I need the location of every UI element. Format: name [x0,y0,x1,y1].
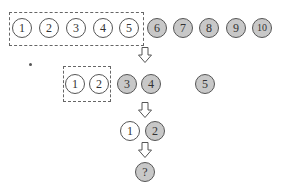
node-row1-6: 6 [147,18,167,38]
node-row1-1: 1 [12,18,32,38]
node-row1-2: 2 [39,18,59,38]
stray-dot [29,63,32,66]
node-row1-4: 4 [93,18,113,38]
node-row2-2: 2 [89,74,109,94]
node-row1-3: 3 [66,18,86,38]
node-row2-5: 5 [195,74,215,94]
node-row3-2: 2 [145,121,165,141]
node-row1-10: 10 [252,18,272,38]
down-arrow-icon [138,142,152,158]
down-arrow-icon [138,102,152,118]
node-row2-3: 3 [117,74,137,94]
node-row4-unknown: ? [135,162,155,182]
down-arrow-icon [138,47,152,63]
node-row2-4: 4 [141,74,161,94]
node-row1-7: 7 [173,18,193,38]
node-row3-1: 1 [120,121,140,141]
node-row1-8: 8 [199,18,219,38]
node-row1-5: 5 [119,18,139,38]
node-row1-9: 9 [226,18,246,38]
node-row2-1: 1 [65,74,85,94]
